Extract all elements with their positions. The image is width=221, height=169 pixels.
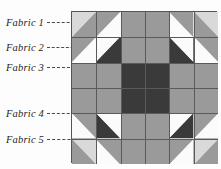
quilt-diagram: Fabric 1Fabric 2Fabric 3Fabric 4Fabric 5 (0, 0, 221, 169)
patch-r1-c0 (72, 37, 96, 62)
patch-r4-c1 (96, 113, 120, 138)
patch-r1-c2 (121, 37, 145, 62)
patch-r5-c3 (145, 139, 169, 164)
patch-r1-c4 (169, 37, 193, 62)
label-fabric-1: Fabric 1 (6, 17, 44, 28)
patch-r0-c4 (169, 12, 193, 37)
patch-r3-c3 (145, 88, 169, 113)
patch-r5-c5 (194, 139, 218, 164)
patch-r0-c0 (72, 12, 96, 37)
patch-r4-c0 (72, 113, 96, 138)
patch-r5-c0 (72, 139, 96, 164)
patch-r5-c4 (169, 139, 193, 164)
patch-r5-c1 (96, 139, 120, 164)
patch-r5-c2 (121, 139, 145, 164)
patch-r2-c2 (121, 63, 145, 88)
patch-r1-c1 (96, 37, 120, 62)
patch-r0-c1 (96, 12, 120, 37)
patch-r2-c4 (169, 63, 193, 88)
patch-r2-c5 (194, 63, 218, 88)
patch-r1-c5 (194, 37, 218, 62)
patch-r0-c5 (194, 12, 218, 37)
patch-r2-c3 (145, 63, 169, 88)
patch-r2-c1 (96, 63, 120, 88)
patch-r0-c2 (121, 12, 145, 37)
patch-r2-c0 (72, 63, 96, 88)
patch-r3-c1 (96, 88, 120, 113)
patch-r3-c4 (169, 88, 193, 113)
patch-r4-c5 (194, 113, 218, 138)
patch-r0-c3 (145, 12, 169, 37)
seam-h-4 (72, 113, 218, 114)
label-fabric-5: Fabric 5 (6, 134, 44, 145)
quilt-block (71, 11, 217, 163)
patch-r3-c0 (72, 88, 96, 113)
seam-h-5 (72, 139, 218, 140)
label-fabric-4: Fabric 4 (6, 108, 44, 119)
patch-r3-c2 (121, 88, 145, 113)
seam-v-5 (194, 12, 195, 164)
patch-r4-c3 (145, 113, 169, 138)
seam-h-3 (72, 88, 218, 89)
seam-v-4 (169, 12, 170, 164)
label-fabric-3: Fabric 3 (6, 62, 44, 73)
patch-r4-c2 (121, 113, 145, 138)
patch-r4-c4 (169, 113, 193, 138)
patch-r1-c3 (145, 37, 169, 62)
patch-r3-c5 (194, 88, 218, 113)
label-fabric-2: Fabric 2 (6, 42, 44, 53)
